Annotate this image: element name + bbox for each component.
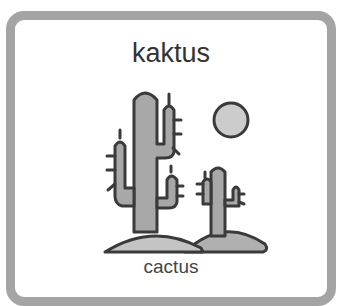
card-caption: cactus: [15, 256, 327, 278]
cactus-desert-icon: [93, 82, 283, 257]
symbol-card[interactable]: kaktus cactus: [6, 11, 336, 306]
card-title: kaktus: [15, 38, 327, 69]
